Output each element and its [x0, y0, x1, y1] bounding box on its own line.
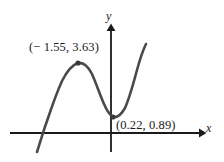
y-axis-label: y: [106, 10, 111, 22]
local-min-label: (0.22, 0.89): [116, 119, 176, 132]
local-min-point: [110, 114, 115, 119]
curve-path: [37, 44, 146, 152]
plot-svg: [0, 0, 224, 162]
figure-canvas: (− 1.55, 3.63) (0.22, 0.89) x y: [0, 0, 224, 162]
local-max-label: (− 1.55, 3.63): [29, 41, 99, 54]
local-max-point: [75, 60, 80, 65]
x-axis: [10, 129, 207, 138]
y-axis-arrowhead: [107, 24, 116, 32]
x-axis-label: x: [206, 122, 211, 134]
